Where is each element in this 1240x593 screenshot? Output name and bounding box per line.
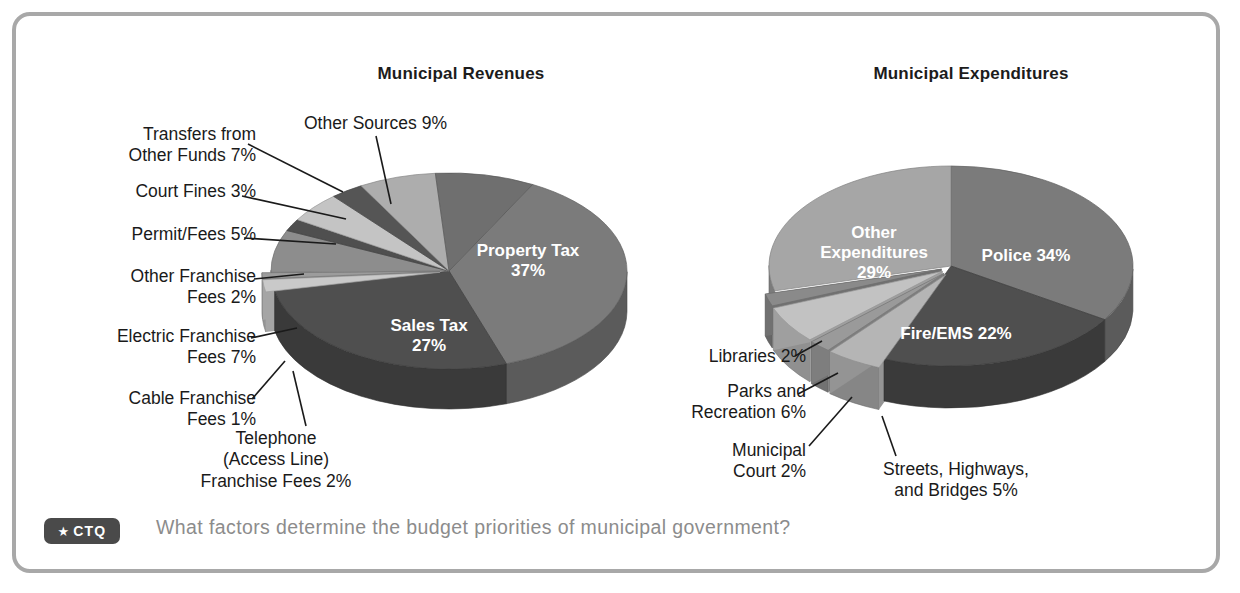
callout-parks-and-recreation: Parks and Recreation 6% (616, 381, 806, 424)
svg-text:Fire/EMS 22%: Fire/EMS 22% (900, 324, 1012, 343)
star-icon: ★ (58, 525, 70, 538)
ctq-footer: ★ CTQ What factors determine the budget … (44, 514, 1184, 554)
callout-libraries: Libraries 2% (626, 346, 806, 367)
callout-electric-franchise-fees: Electric Franchise Fees 7% (16, 326, 256, 369)
ctq-badge: ★ CTQ (44, 518, 120, 544)
callout-telephone-franchise-fees: Telephone (Access Line) Franchise Fees 2… (166, 428, 386, 492)
callout-other-franchise-fees: Other Franchise Fees 2% (26, 266, 256, 309)
callout-cable-franchise-fees: Cable Franchise Fees 1% (26, 388, 256, 431)
callout-other-sources: Other Sources 9% (304, 113, 564, 134)
callout-permit-fees: Permit/Fees 5% (36, 224, 256, 245)
callout-municipal-court: Municipal Court 2% (646, 440, 806, 483)
svg-text:Police 34%: Police 34% (982, 246, 1071, 265)
ctq-badge-label: CTQ (73, 524, 106, 538)
ctq-question-text: What factors determine the budget priori… (156, 516, 791, 539)
chart-frame: Municipal Revenues Municipal Expenditure… (12, 12, 1220, 573)
callout-transfers-from-other-funds: Transfers from Other Funds 7% (36, 124, 256, 167)
callout-streets-highways-bridges: Streets, Highways, and Bridges 5% (846, 459, 1066, 502)
callout-court-fines: Court Fines 3% (36, 181, 256, 202)
